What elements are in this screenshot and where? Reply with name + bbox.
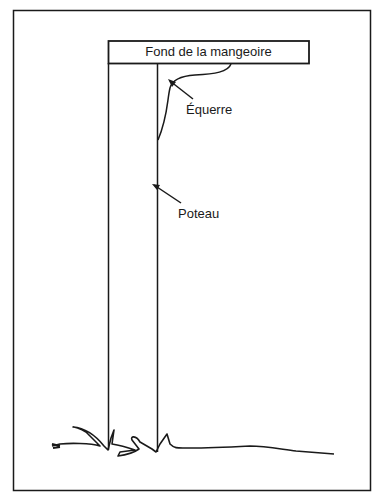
poteau-label: Poteau: [178, 206, 219, 221]
diagram-canvas: [0, 0, 384, 499]
feeder-bottom-label: Fond de la mangeoire: [108, 44, 309, 59]
ground-grass: [52, 427, 334, 456]
equerre-label: Équerre: [186, 102, 232, 117]
outer-frame: [14, 11, 371, 491]
